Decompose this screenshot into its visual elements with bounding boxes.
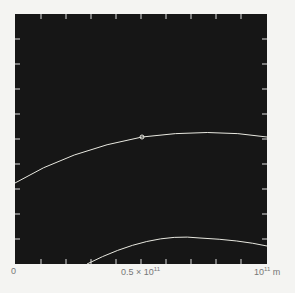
upper-trajectory-line [15, 133, 267, 184]
x-label-mid: 0.5 × 1011 [121, 266, 160, 277]
x-label-max: 1011 m [254, 266, 280, 277]
lower-trajectory-line [87, 237, 267, 264]
x-label-mid-exp: 11 [154, 266, 160, 272]
x-label-zero: 0 [11, 266, 16, 276]
x-label-max-exp: 11 [264, 266, 270, 272]
x-label-mid-base: 0.5 × 10 [121, 267, 154, 277]
plot-overlay [0, 0, 295, 293]
x-label-max-base: 10 [254, 267, 264, 277]
x-label-unit: m [273, 267, 281, 277]
